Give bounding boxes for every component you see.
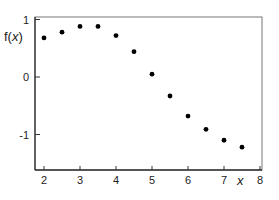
plot-frame — [35, 17, 262, 170]
y-axis-label: f(x) — [4, 29, 23, 44]
x-tick-label: 7 — [221, 174, 227, 186]
data-point — [222, 138, 227, 143]
x-axis-label: x — [236, 173, 244, 188]
axis-ticks — [35, 20, 260, 171]
y-tick-label: 0 — [23, 71, 29, 83]
data-point — [204, 127, 209, 132]
y-tick-label: -1 — [19, 129, 29, 141]
data-point — [132, 49, 137, 54]
data-point — [168, 94, 173, 99]
data-point — [60, 30, 65, 35]
data-point — [186, 114, 191, 119]
data-point — [42, 36, 47, 41]
scatter-chart: 234567810-1 f(x) x — [0, 0, 279, 200]
x-tick-label: 6 — [185, 174, 191, 186]
y-tick-label: 1 — [23, 14, 29, 26]
x-tick-label: 8 — [257, 174, 263, 186]
x-tick-label: 5 — [149, 174, 155, 186]
data-point — [96, 24, 101, 29]
data-point — [240, 145, 245, 150]
x-tick-label: 4 — [113, 174, 119, 186]
data-point — [78, 24, 83, 29]
data-points — [42, 24, 245, 150]
data-point — [114, 33, 119, 38]
x-tick-label: 2 — [41, 174, 47, 186]
x-tick-label: 3 — [77, 174, 83, 186]
tick-labels: 234567810-1 — [19, 14, 263, 187]
data-point — [150, 72, 155, 77]
